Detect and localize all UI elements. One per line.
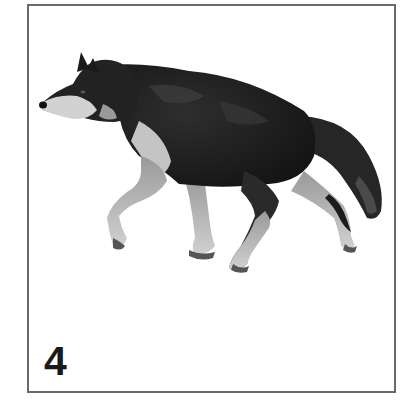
- hind-leg-far: [291, 171, 355, 249]
- card-number: 4: [44, 341, 67, 382]
- front-leg-far: [184, 176, 215, 254]
- front-leg-near: [107, 156, 167, 247]
- wolf-image: [29, 6, 394, 391]
- eye: [81, 91, 86, 94]
- nose: [39, 102, 47, 109]
- illustration-card: 4: [27, 4, 396, 393]
